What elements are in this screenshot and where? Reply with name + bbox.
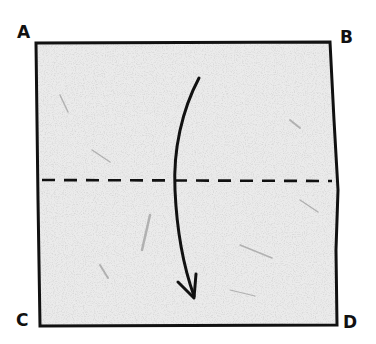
corner-label-d: D	[343, 314, 357, 331]
paper-texture	[36, 42, 338, 326]
origami-diagram: A B C D	[0, 0, 376, 344]
corner-label-b: B	[340, 29, 353, 46]
corner-label-c: C	[16, 312, 28, 329]
origami-diagram-svg	[0, 0, 376, 344]
corner-label-a: A	[17, 24, 30, 41]
